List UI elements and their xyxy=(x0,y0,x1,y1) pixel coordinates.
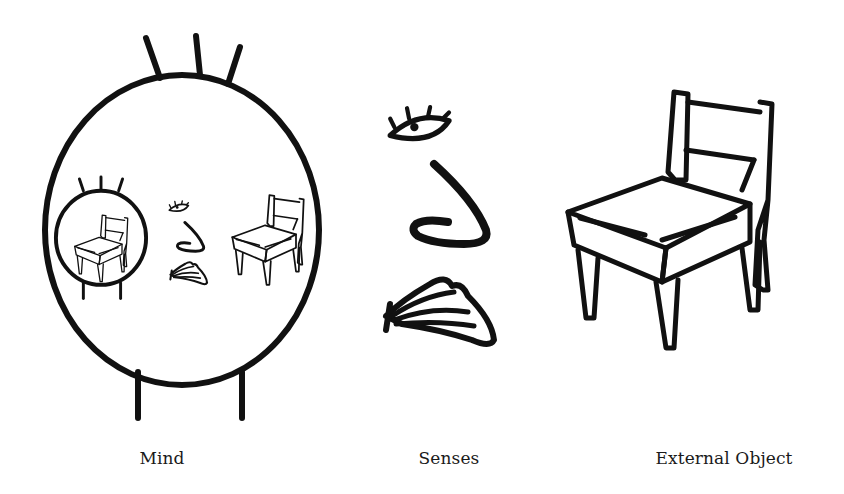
senses-nose-icon xyxy=(413,164,486,244)
mind-senses-object-diagram: Mind Senses External Object xyxy=(0,0,844,494)
inner-mind-chair-icon xyxy=(75,215,128,282)
mind-eye-icon xyxy=(169,201,188,211)
label-external-object: External Object xyxy=(656,448,793,468)
head-outline xyxy=(45,75,319,385)
mind-nose-icon xyxy=(177,222,203,251)
mind-chair-icon xyxy=(232,195,303,285)
external-chair-icon xyxy=(568,92,772,348)
mind-tongue-icon xyxy=(170,262,207,284)
mind-head xyxy=(45,36,319,418)
label-senses: Senses xyxy=(419,448,480,468)
senses-eye-icon xyxy=(390,107,449,138)
hair-strand xyxy=(228,47,240,84)
hair-strand xyxy=(196,36,200,75)
senses-tongue-icon xyxy=(386,279,494,344)
hair-strand xyxy=(146,38,160,78)
label-mind: Mind xyxy=(139,448,184,468)
